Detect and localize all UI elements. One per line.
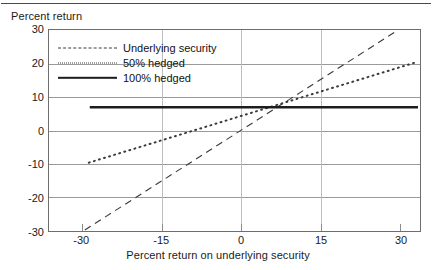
legend-item-underlying-security: Underlying security	[58, 40, 236, 55]
y-axis-caption: Percent return	[11, 10, 82, 22]
x-tick-label: -15	[153, 234, 169, 246]
y-tick-label: 0	[4, 125, 44, 137]
legend-label: Underlying security	[123, 42, 217, 54]
y-tick-label: -30	[4, 226, 44, 238]
plot-area: Underlying security 50% hedged 100% hedg…	[48, 29, 421, 232]
dotted-line-swatch-icon	[58, 57, 117, 69]
x-tick-label: 30	[395, 234, 407, 246]
y-tick-label: -20	[4, 192, 44, 204]
chart-legend: Underlying security 50% hedged 100% hedg…	[58, 40, 236, 85]
y-tick-label: 20	[4, 57, 44, 69]
legend-label: 50% hedged	[123, 57, 185, 69]
legend-label: 100% hedged	[123, 72, 191, 84]
x-tick-label: 0	[238, 234, 244, 246]
solid-line-swatch-icon	[58, 72, 117, 84]
legend-item-100-percent-hedged: 100% hedged	[58, 70, 236, 85]
y-axis-tick-labels: 30 20 10 0 -10 -20 -30	[0, 29, 44, 232]
chart-figure: Percent return 30 20 10 0 -10 -20 -30	[0, 0, 436, 270]
x-tick-label: -30	[73, 234, 89, 246]
legend-item-50-percent-hedged: 50% hedged	[58, 55, 236, 70]
dashed-line-swatch-icon	[58, 42, 117, 54]
header-divider	[1, 3, 431, 4]
y-tick-label: -10	[4, 158, 44, 170]
x-axis-tick-labels: -30 -15 0 15 30	[48, 234, 421, 250]
y-tick-label: 10	[4, 91, 44, 103]
y-tick-label: 30	[4, 23, 44, 35]
x-axis-caption: Percent return on underlying security	[0, 249, 436, 261]
x-tick-label: 15	[315, 234, 327, 246]
